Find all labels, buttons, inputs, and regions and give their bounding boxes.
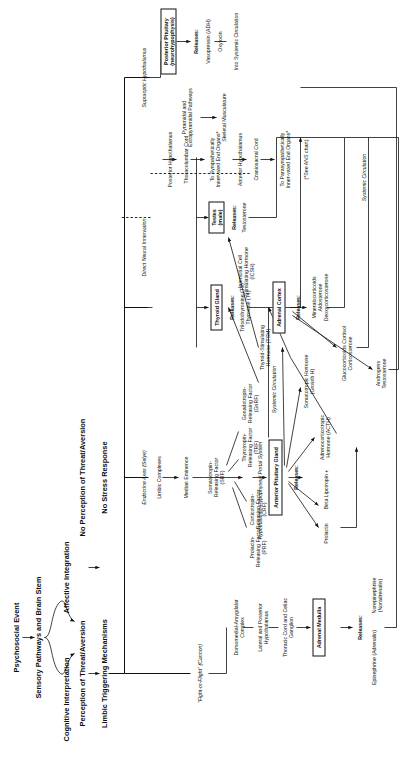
box-anterior-pituitary: Anterior Pituitary Gland <box>268 439 282 515</box>
box-posterior-pituitary: Posterior Pituitary (neurohypophysis) <box>160 8 176 74</box>
node-vasopressin: Vasopressin (ADH) <box>204 13 210 69</box>
node-testosterone: Testosterone <box>240 191 246 243</box>
label-endocrine-axes: Endocrine Axes (Selye) <box>140 450 146 504</box>
node-oxytocin: Oxytocin <box>216 13 222 69</box>
label-systemic-circulation-pituitary: Systemic Circulation <box>270 365 276 412</box>
node-skeletal-musculature: Skeletal Musculature <box>220 85 226 149</box>
header-cognitive-interpretation: Cognitive Interpretation <box>62 657 71 741</box>
label-fight-or-flight: "Fight-or-Flight" (Cannon) <box>196 643 202 702</box>
header-perception-threat: Perception of Threat/Aversion <box>78 620 87 726</box>
node-thoracic-cord-celiac: Thoracic Cord and Celiac Ganglion <box>281 596 293 658</box>
node-craniosacral-cord: Craniosacral Cord <box>252 129 258 189</box>
header-sensory-pathways: Sensory Pathways and Brain Stem <box>34 576 43 698</box>
node-posterior-hypothalamus: Posterior Hypothalamus <box>166 129 172 189</box>
node-somatotropic: Somatotropic Hormone (Growth H) <box>302 353 314 409</box>
label-portal-system: Hypothalamic-Hypophyseal Portal System <box>256 441 262 539</box>
label-posterior-releases: Releases: <box>192 29 198 53</box>
node-srf: Somatotropin-Releasing Factor (SRF) <box>206 455 225 499</box>
box-thyroid-gland: Thyroid Gland <box>210 284 222 330</box>
box-adrenal-cortex: Adrenal Cortex <box>272 281 285 333</box>
node-pyramidal-pathways: Pyramidal and Extrapyramidal Pathways <box>180 85 192 149</box>
label-into-systemic-circulation: Into Systemic Circulation <box>232 6 238 76</box>
node-sympathetic-end-organs: To Sympathetically Innervated End Organs… <box>208 128 220 190</box>
box-testes: Testes (male) <box>208 201 224 233</box>
node-prolactin: Prolactin <box>322 512 328 554</box>
header-no-stress-response: No Stress Response <box>100 441 109 513</box>
node-norepinephrine: Norepinephrine (Noradrenalin) <box>370 565 382 625</box>
label-testes-releases: Releases: <box>230 205 236 229</box>
node-parasympathetic-end-organs: To Parasympathetically Inner-vated End O… <box>278 128 290 190</box>
header-no-perception-threat: No Perception of Threat/Aversion <box>78 418 87 536</box>
header-psychosocial-event: Psychosocial Event <box>12 602 21 672</box>
node-gnrf: Gonadotropin-Releasing Factor (GnRF) <box>240 380 259 426</box>
node-glucocorticoids: Glucocorticoids Cortisol Corticosterone <box>340 322 352 384</box>
header-limbic-triggering: Limbic Triggering Mechanisms <box>100 619 109 728</box>
label-ans-chart-note: (*See ANS chart) <box>302 128 308 190</box>
node-epinephrine: Epinephrine (Adrenalin) <box>370 629 376 685</box>
diagram-frame: Psychosocial Event Sensory Pathways and … <box>0 0 417 777</box>
label-pituitary-releases: Releases: <box>292 465 298 489</box>
node-median-eminence: Median Eminence <box>182 447 188 507</box>
node-androgens: Androgens Testosterone <box>374 348 386 398</box>
header-affective-integration: Affective Integration <box>62 541 71 613</box>
node-limbic-complexes: Limbic Complexes <box>155 447 161 507</box>
box-adrenal-medulla: Adrenal Medulla <box>312 598 325 656</box>
node-thyroid-hormones: Triiodothyronine (T3) Thyroxine (T4) <box>238 272 250 342</box>
label-cortex-releases: Releases: <box>294 295 300 319</box>
node-dorsomedial-amygdalar: Dorsomedial-Amygdalar Complex <box>232 596 244 658</box>
label-thyroid-releases: Releases: <box>228 295 234 319</box>
node-lateral-posterior-hypothalamus: Lateral and Posterior Hypothalamus <box>256 596 268 658</box>
label-systemic-circulation-cortex: Systemic Circulation <box>360 153 366 200</box>
node-tsm: Thyroid-Stimulating Hormone (TSM) <box>258 319 270 375</box>
label-direct-neural-innervation: Direct Neural Innervation <box>140 218 146 276</box>
node-mineralocorticoids: Mineralocorticoids Aldosterone Deoxycort… <box>310 264 329 330</box>
diagram-canvas: Psychosocial Event Sensory Pathways and … <box>0 0 417 777</box>
label-medulla-releases: Releases: <box>356 615 362 639</box>
node-acth: Adrenocorticotropic Hormone (ACTH) <box>318 409 330 465</box>
node-beta-lipotropin: Beta Lipotropin + <box>322 467 328 511</box>
node-anterior-hypothalamus: Anterior Hypothalamus <box>236 129 242 189</box>
node-supraoptic-hypothalamus: Supraoptic Hypothalamus <box>140 47 146 107</box>
